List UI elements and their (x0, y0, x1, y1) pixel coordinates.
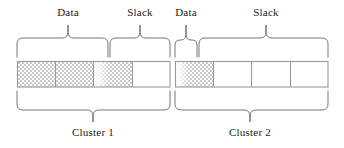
cell-fill-c1-3 (132, 61, 170, 87)
cell-fill-c1-2-partial (93, 61, 132, 87)
brace-slack-1 (110, 25, 170, 57)
figure-canvas: Data Slack Data Slack Cluster 1 Cluster … (0, 0, 344, 148)
label-slack-2: Slack (226, 6, 306, 18)
label-cluster-2: Cluster 2 (200, 126, 300, 138)
cell-fill-c1-1 (55, 61, 93, 87)
cell-fill-c2-2 (251, 61, 290, 87)
label-cluster-1: Cluster 1 (43, 126, 143, 138)
label-data-2: Data (146, 6, 226, 18)
cell-fill-c2-0-partial (175, 61, 213, 87)
brace-slack-2 (199, 25, 328, 57)
brace-cluster-2 (175, 91, 328, 122)
top-braces (17, 25, 328, 57)
brace-data-1 (17, 25, 108, 57)
brace-cluster-1 (17, 91, 170, 122)
cell-fill-c2-1 (213, 61, 251, 87)
bottom-braces (17, 91, 328, 122)
cell-fill-c1-0 (17, 61, 55, 87)
brace-data-2 (175, 25, 197, 57)
cell-fill-c2-3 (290, 61, 328, 87)
